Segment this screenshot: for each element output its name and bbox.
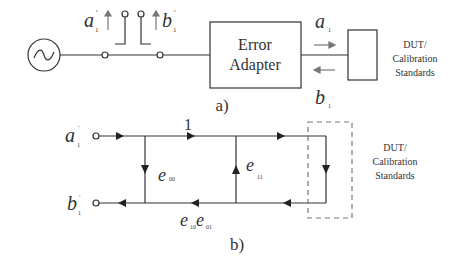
arrow-left-icon [191, 199, 199, 207]
arrow-down-icon [322, 165, 330, 174]
arrow-right-icon [116, 132, 124, 140]
port-a-label: a [65, 124, 75, 146]
port-a-terminal [93, 133, 99, 139]
adapter-label-line2: Adapter [229, 56, 281, 74]
terminal [122, 11, 128, 17]
arrow-right-icon [187, 132, 195, 140]
port-b-subscript: 1 [78, 210, 81, 216]
caption-b: b) [230, 235, 244, 254]
e11-label: e [246, 155, 254, 175]
dut-label-line1: DUT/ [383, 142, 407, 153]
wave-b1-subscript: 1 [328, 103, 331, 109]
branch-top-label: 1 [184, 116, 192, 133]
incident-wave-prime: ′ [96, 9, 98, 18]
arrow-left-icon [118, 199, 126, 207]
arrow-right-icon [277, 132, 285, 140]
arrow-left-icon [283, 199, 291, 207]
arrow-up-icon [232, 165, 240, 174]
port-b-label: b [67, 192, 77, 214]
terminal [157, 52, 163, 58]
wave-a1-label: a [315, 10, 325, 32]
port-a-prime: ′ [78, 124, 80, 132]
arrow-up-icon [105, 11, 111, 16]
dut-label-line1: DUT/ [403, 39, 427, 50]
incident-wave-subscript: 1 [95, 26, 99, 34]
e11-subscript: 11 [257, 174, 263, 180]
port-b-prime: ′ [79, 193, 81, 201]
arrow-down-icon [141, 165, 149, 174]
e00-subscript: 00 [169, 176, 175, 182]
dut-label-line3: Standards [395, 67, 435, 78]
port-b-terminal [93, 200, 99, 206]
terminal [138, 11, 144, 17]
e10-label: e [180, 210, 188, 230]
coupler-tap-a [115, 17, 125, 44]
arrow-right-icon [329, 42, 335, 48]
e01-label: e [196, 210, 204, 230]
dut-label-line2: Calibration [373, 156, 418, 167]
port-a-subscript: 1 [77, 142, 80, 148]
coupler-tap-b [141, 17, 151, 44]
wave-b1-label: b [315, 86, 325, 108]
dut-label-line3: Standards [375, 170, 415, 181]
error-adapter-box [210, 22, 301, 88]
wave-a1-subscript: 1 [328, 27, 331, 33]
dut-box [348, 30, 377, 80]
ac-source-icon [28, 39, 60, 71]
reflected-wave-subscript: 1 [173, 26, 177, 34]
e01-subscript: 01 [206, 224, 212, 230]
reflected-wave-label: b [162, 9, 172, 31]
adapter-label-line1: Error [238, 36, 272, 53]
arrow-left-icon [314, 67, 320, 73]
caption-a: a) [215, 96, 228, 115]
terminal [102, 52, 108, 58]
part-b [93, 133, 326, 206]
e00-label: e [158, 165, 166, 185]
arrow-up-icon [153, 11, 159, 16]
incident-wave-label: a [84, 9, 94, 31]
dut-label-line2: Calibration [393, 53, 438, 64]
calibration-diagram: a 1 ′ b 1 ′ Error Adapter a 1 b 1 DUT/ C… [0, 0, 451, 263]
reflected-wave-prime: ′ [174, 9, 176, 18]
